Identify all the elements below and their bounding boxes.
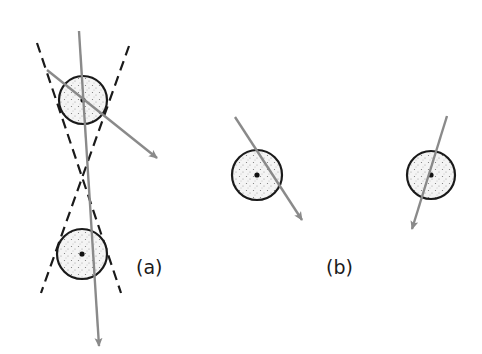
right-particle (407, 151, 455, 199)
bottom-particle-center (79, 251, 84, 256)
left-particle-center (254, 172, 259, 177)
bottom-particle (57, 229, 107, 279)
panel-a (37, 31, 157, 346)
panel-b-label: (b) (326, 256, 353, 278)
scattering-diagram (0, 0, 482, 354)
panel-b (232, 116, 455, 229)
panel-a-label: (a) (136, 256, 162, 278)
left-particle (232, 150, 282, 200)
